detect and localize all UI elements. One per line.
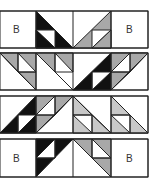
block-label-b: B	[126, 153, 133, 164]
row-2	[0, 53, 148, 90]
row-3	[0, 96, 148, 133]
block-label-b: B	[13, 24, 20, 35]
block-label-b: B	[13, 153, 20, 164]
block-label-b: B	[126, 24, 133, 35]
quilt-diagram: B B B B	[0, 0, 159, 187]
